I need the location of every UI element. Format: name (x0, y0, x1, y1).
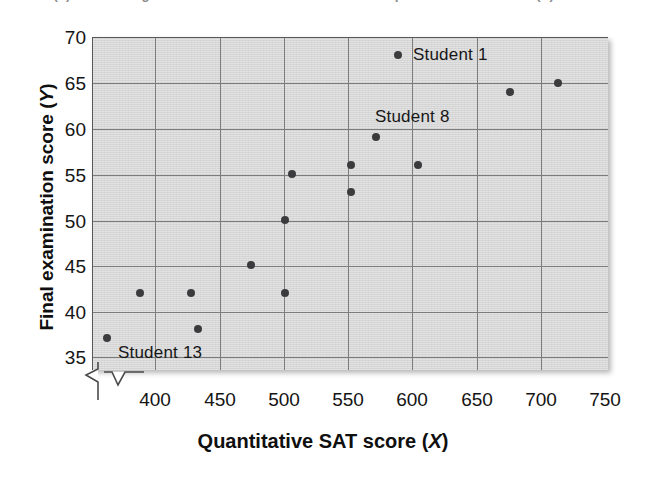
data-point[interactable] (136, 289, 144, 297)
gridline-y-60 (92, 129, 608, 130)
gridline-x-500 (284, 37, 285, 370)
x-tick-500: 500 (254, 389, 314, 411)
data-point[interactable] (187, 289, 195, 297)
data-point[interactable] (554, 79, 562, 87)
data-point[interactable] (394, 51, 402, 59)
plot-area: Student 1 Student 8 Student 13 (92, 37, 608, 370)
gridline-y-45 (92, 266, 608, 267)
x-axis-title-variable: X (428, 430, 441, 452)
data-point[interactable] (281, 216, 289, 224)
gridline-x-550 (348, 37, 349, 370)
y-axis-title-variable: Y (36, 90, 57, 103)
x-axis-title: Quantitative SAT score (X) (0, 430, 646, 453)
data-point[interactable] (247, 261, 255, 269)
data-point[interactable] (103, 334, 111, 342)
gridline-y-65 (92, 83, 608, 84)
y-axis-title-prefix: Final examination score ( (36, 102, 57, 330)
paper-texture (92, 37, 608, 370)
gridline-x-650 (477, 37, 478, 370)
data-point[interactable] (281, 289, 289, 297)
gridline-x-400 (155, 37, 156, 370)
x-tick-650: 650 (447, 389, 507, 411)
scatter-plot-figure: Student 1 Student 8 Student 13 70 65 60 … (0, 0, 646, 480)
x-axis-tick-labels: 400 450 500 550 600 650 700 750 (0, 389, 646, 415)
data-point[interactable] (372, 133, 380, 141)
x-tick-550: 550 (318, 389, 378, 411)
data-point[interactable] (347, 161, 355, 169)
x-tick-700: 700 (511, 389, 571, 411)
gridline-y-50 (92, 221, 608, 222)
plot-border (92, 37, 608, 370)
data-point[interactable] (288, 170, 296, 178)
annotation-student-1: Student 1 (413, 45, 488, 65)
gridline-x-600 (412, 37, 413, 370)
x-tick-750: 750 (575, 389, 635, 411)
y-axis-title: Final examination score (Y) (36, 42, 58, 372)
gridline-y-55 (92, 175, 608, 176)
y-axis-title-suffix: ) (36, 83, 57, 89)
x-axis-title-prefix: Quantitative SAT score ( (198, 430, 429, 452)
x-tick-600: 600 (382, 389, 442, 411)
annotation-student-8: Student 8 (375, 107, 450, 127)
data-point[interactable] (506, 88, 514, 96)
x-tick-400: 400 (125, 389, 185, 411)
data-point[interactable] (347, 188, 355, 196)
x-axis-title-suffix: ) (442, 430, 449, 452)
gridline-x-450 (220, 37, 221, 370)
x-tick-450: 450 (190, 389, 250, 411)
data-point[interactable] (194, 325, 202, 333)
data-point[interactable] (414, 161, 422, 169)
gridline-y-40 (92, 312, 608, 313)
gridline-x-700 (541, 37, 542, 370)
